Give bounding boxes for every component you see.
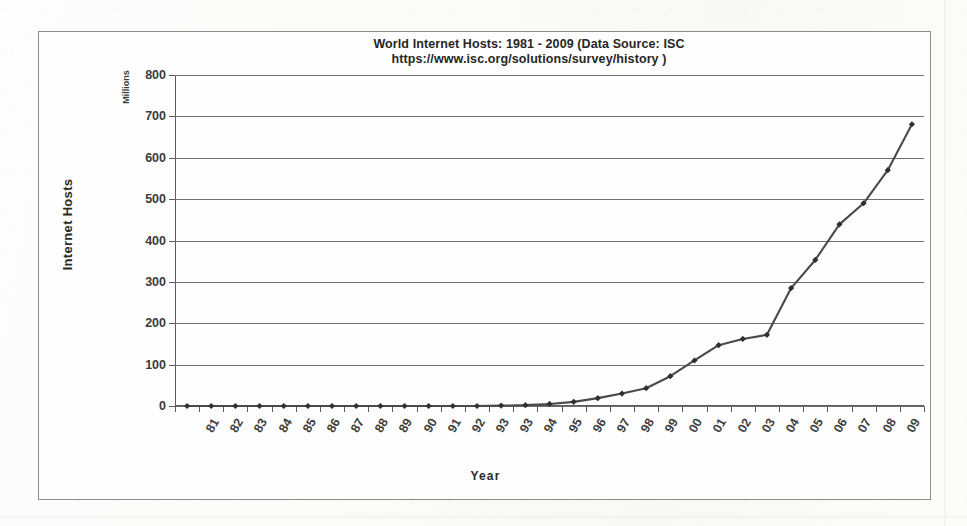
x-tick-label: 03	[759, 416, 778, 435]
x-tick-mark	[610, 406, 611, 412]
data-point-marker	[208, 403, 214, 409]
scan-streak	[944, 0, 946, 526]
x-tick-label: 84	[276, 416, 295, 435]
data-point-marker	[619, 390, 625, 396]
x-tick-mark	[586, 406, 587, 412]
x-tick-label: 90	[420, 416, 439, 435]
data-point-marker	[498, 402, 504, 408]
x-tick-mark	[827, 406, 828, 412]
data-point-marker	[377, 403, 383, 409]
y-tick-label: 300	[126, 275, 166, 289]
x-tick-label: 01	[710, 416, 729, 435]
y-tick-label: 800	[126, 68, 166, 82]
x-tick-label: 06	[831, 416, 850, 435]
x-tick-mark	[803, 406, 804, 412]
x-tick-mark	[900, 406, 901, 412]
x-tick-mark	[707, 406, 708, 412]
x-tick-label: 04	[783, 416, 802, 435]
x-tick-label: 96	[590, 416, 609, 435]
data-point-marker	[595, 395, 601, 401]
y-axis-title: Internet Hosts	[60, 145, 75, 305]
data-point-marker	[256, 403, 262, 409]
x-tick-mark	[175, 406, 176, 412]
x-tick-label: 93	[493, 416, 512, 435]
x-tick-mark	[537, 406, 538, 412]
chart-title: World Internet Hosts: 1981 - 2009 (Data …	[159, 37, 899, 67]
x-tick-mark	[876, 406, 877, 412]
data-point-marker	[232, 403, 238, 409]
x-tick-label: 92	[469, 416, 488, 435]
data-point-marker	[474, 403, 480, 409]
data-point-marker	[353, 403, 359, 409]
x-tick-label: 09	[904, 416, 923, 435]
x-tick-label: 89	[396, 416, 415, 435]
y-tick-label: 700	[126, 109, 166, 123]
data-point-marker	[401, 403, 407, 409]
x-tick-mark	[562, 406, 563, 412]
data-point-marker	[522, 402, 528, 408]
data-point-marker	[426, 403, 432, 409]
x-tick-mark	[634, 406, 635, 412]
data-point-marker	[281, 403, 287, 409]
x-tick-label: 82	[227, 416, 246, 435]
y-tick-label: 600	[126, 151, 166, 165]
x-tick-label: 83	[251, 416, 270, 435]
data-point-marker	[184, 403, 190, 409]
chart-title-line-1: World Internet Hosts: 1981 - 2009 (Data …	[159, 37, 899, 52]
x-tick-label: 02	[735, 416, 754, 435]
x-tick-label: 87	[348, 416, 367, 435]
plot-area: 0100200300400500600700800 81828384858687…	[175, 75, 924, 406]
y-tick-label: 100	[126, 358, 166, 372]
x-tick-label: 93	[517, 416, 536, 435]
x-tick-mark	[924, 406, 925, 412]
x-tick-mark	[489, 406, 490, 412]
x-tick-label: 08	[880, 416, 899, 435]
data-point-marker	[329, 403, 335, 409]
data-point-marker	[305, 403, 311, 409]
x-tick-label: 05	[807, 416, 826, 435]
x-tick-label: 97	[614, 416, 633, 435]
x-tick-label: 98	[638, 416, 657, 435]
data-point-marker	[571, 399, 577, 405]
y-tick-label: 400	[126, 234, 166, 248]
x-tick-label: 86	[324, 416, 343, 435]
x-tick-mark	[658, 406, 659, 412]
x-tick-mark	[731, 406, 732, 412]
x-tick-label: 88	[372, 416, 391, 435]
chart-title-line-2: https://www.isc.org/solutions/survey/his…	[159, 52, 899, 67]
line-series-chart	[175, 75, 924, 406]
x-tick-label: 00	[686, 416, 705, 435]
x-tick-label: 07	[855, 416, 874, 435]
data-point-marker	[740, 336, 746, 342]
y-tick-label: 0	[126, 399, 166, 413]
x-tick-label: 94	[541, 416, 560, 435]
chart-frame: World Internet Hosts: 1981 - 2009 (Data …	[38, 31, 931, 500]
y-tick-label: 200	[126, 316, 166, 330]
series-line	[187, 124, 912, 406]
x-tick-label: 95	[565, 416, 584, 435]
y-axis-units-label: Millions	[121, 57, 131, 117]
x-tick-label: 91	[445, 416, 464, 435]
y-tick-label: 500	[126, 192, 166, 206]
x-tick-mark	[779, 406, 780, 412]
x-tick-mark	[682, 406, 683, 412]
x-tick-mark	[852, 406, 853, 412]
x-tick-label: 99	[662, 416, 681, 435]
x-axis-title: Year	[39, 469, 932, 483]
scan-streak	[0, 516, 967, 518]
x-tick-mark	[513, 406, 514, 412]
x-tick-label: 85	[300, 416, 319, 435]
data-point-marker	[450, 403, 456, 409]
x-tick-label: 81	[203, 416, 222, 435]
x-tick-mark	[755, 406, 756, 412]
